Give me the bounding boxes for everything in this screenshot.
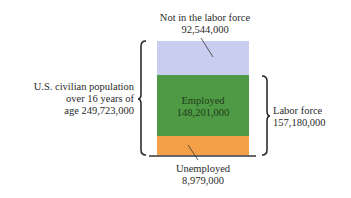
right-brace-icon [262,76,270,155]
label-civilian-population: U.S. civilian population over 16 years o… [0,81,134,117]
label-unemployed: Unemployed 8,979,000 [150,163,256,187]
leader-line-unemployed [188,145,198,160]
label-civilian-population-line1: U.S. civilian population [0,81,134,93]
label-labor-force-value: 157,180,000 [273,117,351,129]
label-labor-force-name: Labor force [273,105,351,117]
label-unemployed-name: Unemployed [150,163,256,175]
left-brace-icon [138,41,146,155]
label-not-in-labor-force-name: Not in the labor force [140,12,270,24]
label-unemployed-value: 8,979,000 [150,175,256,187]
label-not-in-labor-force-value: 92,544,000 [140,24,270,36]
label-employed-value: 148,201,000 [157,107,249,119]
label-civilian-population-line2: over 16 years of [0,93,134,105]
label-not-in-labor-force: Not in the labor force 92,544,000 [140,12,270,36]
label-employed: Employed 148,201,000 [157,95,249,119]
label-employed-name: Employed [157,95,249,107]
leader-line-not-in-labor-force [201,38,213,57]
label-labor-force: Labor force 157,180,000 [273,105,351,129]
label-civilian-population-line3: age 249,723,000 [0,105,134,117]
